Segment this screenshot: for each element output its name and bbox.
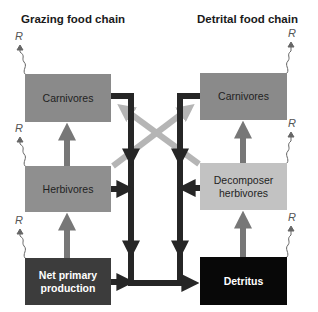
detrital-carnivores-box: Carnivores — [200, 73, 287, 120]
cross-arrow-herbivores-to-detrital-carnivores — [113, 109, 188, 166]
npp-label-line1: Net primary — [39, 269, 97, 282]
respiration-label: R — [15, 122, 23, 134]
respiration-label: R — [288, 27, 296, 39]
grazing-carnivores-box: Carnivores — [25, 74, 111, 122]
respiration-label: R — [15, 30, 23, 42]
herbivores-label: Herbivores — [43, 183, 94, 196]
herbivores-box: Herbivores — [25, 166, 111, 212]
decomposer-label-line2: herbivores — [219, 187, 268, 200]
dead-matter-flow-left — [111, 96, 131, 283]
respiration-label: R — [15, 214, 23, 226]
dead-matter-flow-right — [180, 96, 200, 283]
respiration-label: R — [288, 211, 296, 223]
respiration-arrows-detrital — [287, 42, 294, 257]
detrital-carnivores-label: Carnivores — [218, 90, 269, 103]
grazing-carnivores-label: Carnivores — [43, 92, 94, 105]
cross-arrow-decomposer-to-grazing-carnivores — [124, 109, 199, 164]
detritus-box: Detritus — [200, 257, 287, 305]
respiration-label: R — [288, 117, 296, 129]
npp-label-line2: production — [41, 282, 96, 295]
net-primary-production-box: Net primary production — [25, 258, 111, 305]
decomposer-label-line1: Decomposer — [214, 174, 274, 187]
detritus-label: Detritus — [224, 275, 264, 288]
decomposer-herbivores-box: Decomposer herbivores — [200, 163, 287, 210]
